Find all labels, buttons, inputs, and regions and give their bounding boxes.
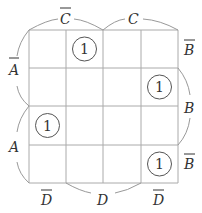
svg-text:C: C: [60, 11, 71, 27]
top-label-not-c: C: [60, 8, 71, 27]
bottom-label-not-d-right: D: [152, 190, 164, 208]
karnaugh-map: C C A A B B B D D D 1 1: [0, 0, 202, 213]
arc-top-c: [103, 19, 178, 30]
svg-text:D: D: [40, 192, 52, 208]
left-label-a: A: [7, 139, 19, 155]
svg-text:D: D: [96, 192, 108, 208]
cell-one-r3-c3: 1: [148, 152, 172, 176]
svg-text:1: 1: [80, 41, 89, 57]
svg-text:A: A: [7, 62, 19, 78]
right-label-not-b-bottom: B: [183, 154, 195, 172]
svg-text:D: D: [152, 192, 164, 208]
top-label-c: C: [128, 11, 139, 27]
svg-text:1: 1: [43, 118, 52, 134]
cell-one-r0-c1: 1: [73, 37, 97, 61]
svg-text:C: C: [128, 11, 139, 27]
right-label-b: B: [183, 100, 194, 116]
cell-one-r1-c3: 1: [148, 75, 172, 99]
left-label-not-a: A: [7, 58, 19, 78]
svg-text:B: B: [183, 42, 194, 58]
svg-text:B: B: [183, 156, 194, 172]
bottom-label-d: D: [96, 192, 108, 208]
svg-text:1: 1: [155, 79, 164, 95]
right-label-not-b-top: B: [183, 40, 195, 58]
bottom-label-not-d-left: D: [40, 190, 52, 208]
svg-text:B: B: [183, 100, 194, 116]
cell-one-r2-c0: 1: [36, 114, 60, 138]
svg-text:A: A: [7, 139, 19, 155]
svg-text:1: 1: [155, 156, 164, 172]
